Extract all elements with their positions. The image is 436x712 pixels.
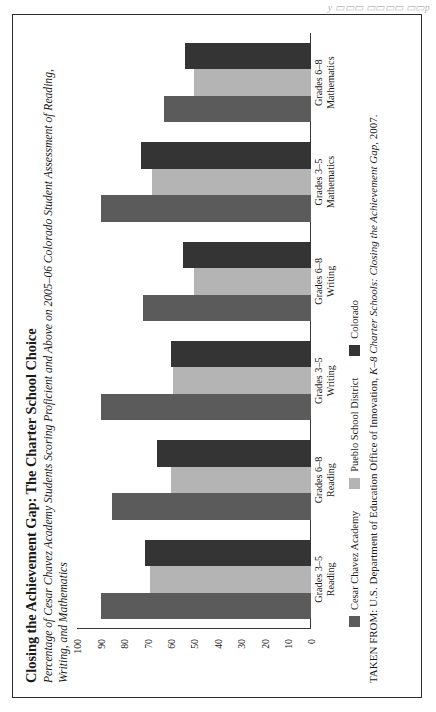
source-suffix: , 2007. [367, 114, 379, 144]
rotated-figure-container: Closing the Achievement Gap: The Charter… [0, 0, 436, 712]
category-label-line1: Grades 6–8 [313, 33, 325, 132]
bar-stack [77, 530, 311, 629]
legend-item[interactable]: Colorado [349, 300, 360, 356]
series-row [77, 242, 311, 321]
legend-swatch [349, 616, 360, 627]
legend-swatch [349, 478, 360, 489]
bar[interactable] [112, 493, 311, 519]
series-row [77, 43, 311, 122]
bar-groups [77, 33, 311, 629]
category-label-line2: Mathematics [325, 132, 337, 231]
bar-group [77, 132, 311, 231]
figure-title: Closing the Achievement Gap: The Charter… [23, 29, 39, 683]
bar-stack [77, 33, 311, 132]
category-label-line2: Reading [325, 530, 337, 629]
bar[interactable] [101, 195, 312, 221]
series-row [77, 142, 311, 221]
y-tick-label: 60 [165, 639, 176, 649]
y-tick-label: 70 [142, 639, 153, 649]
legend-label: Cesar Chavez Academy [349, 511, 360, 610]
bar[interactable] [157, 440, 311, 466]
bar-group [77, 430, 311, 529]
legend-label: Pueblo School District [349, 378, 360, 472]
chart-legend: Cesar Chavez AcademyPueblo School Distri… [349, 29, 360, 683]
bar[interactable] [101, 593, 312, 619]
bar[interactable] [194, 268, 311, 294]
legend-label: Colorado [349, 300, 360, 339]
bar[interactable] [164, 96, 311, 122]
category-label-line1: Grades 3–5 [313, 132, 325, 231]
y-tick-label: 30 [236, 639, 247, 649]
category-label: Grades 3–5Mathematics [313, 132, 343, 231]
bar[interactable] [183, 242, 312, 268]
y-tick-label: 0 [306, 639, 317, 644]
bar[interactable] [145, 540, 311, 566]
source-note: TAKEN FROM: U.S. Department of Education… [367, 29, 380, 683]
category-labels: Grades 3–5ReadingGrades 6–8ReadingGrades… [313, 33, 343, 629]
category-label: Grades 6–8Reading [313, 430, 343, 529]
series-row [77, 341, 311, 420]
book-page: y ▭▭▭ ▭▭▭▭ ▭▭p Closing the Achievement G… [0, 0, 436, 712]
category-label-line1: Grades 3–5 [313, 530, 325, 629]
bar-group [77, 331, 311, 430]
bar[interactable] [150, 566, 311, 592]
series-row [77, 440, 311, 519]
category-label-line1: Grades 6–8 [313, 232, 325, 331]
y-tick-label: 40 [212, 639, 223, 649]
legend-swatch [349, 345, 360, 356]
source-prefix: TAKEN FROM: U.S. Department of Education… [367, 375, 379, 683]
bar[interactable] [185, 43, 311, 69]
plot-area: 0102030405060708090100 Grades 3–5Reading… [77, 29, 345, 683]
figure-subtitle: Percentage of Cesar Chavez Academy Stude… [41, 29, 71, 683]
category-label-line2: Mathematics [325, 33, 337, 132]
category-label: Grades 6–8Mathematics [313, 33, 343, 132]
bar[interactable] [152, 169, 311, 195]
bar[interactable] [141, 142, 312, 168]
category-label-line1: Grades 3–5 [313, 331, 325, 430]
y-tick-label: 90 [95, 639, 106, 649]
bar-group [77, 232, 311, 331]
category-label-line2: Writing [325, 232, 337, 331]
legend-item[interactable]: Pueblo School District [349, 378, 360, 489]
category-label: Grades 3–5Writing [313, 331, 343, 430]
bar[interactable] [171, 341, 311, 367]
bar-stack [77, 430, 311, 529]
bar-stack [77, 331, 311, 430]
bars-canvas [77, 33, 311, 629]
y-tick-label: 10 [282, 639, 293, 649]
figure-box: Closing the Achievement Gap: The Charter… [12, 14, 422, 698]
series-row [77, 540, 311, 619]
bar[interactable] [101, 394, 312, 420]
bar[interactable] [143, 295, 311, 321]
legend-item[interactable]: Cesar Chavez Academy [349, 511, 360, 627]
category-label: Grades 6–8Writing [313, 232, 343, 331]
category-label-line2: Reading [325, 430, 337, 529]
y-tick-label: 80 [119, 639, 130, 649]
category-label-line2: Writing [325, 331, 337, 430]
bar[interactable] [171, 467, 311, 493]
y-tick-label: 50 [189, 639, 200, 649]
y-axis-ticks: 0102030405060708090100 [77, 633, 311, 683]
y-tick-label: 100 [72, 639, 83, 654]
source-title: K–8 Charter Schools: Closing the Achieve… [367, 145, 379, 375]
bar[interactable] [194, 69, 311, 95]
bar-stack [77, 232, 311, 331]
bar-stack [77, 132, 311, 231]
bar-group [77, 530, 311, 629]
bar-group [77, 33, 311, 132]
category-label: Grades 3–5Reading [313, 530, 343, 629]
category-label-line1: Grades 6–8 [313, 430, 325, 529]
y-tick-label: 20 [259, 639, 270, 649]
bar[interactable] [173, 367, 311, 393]
